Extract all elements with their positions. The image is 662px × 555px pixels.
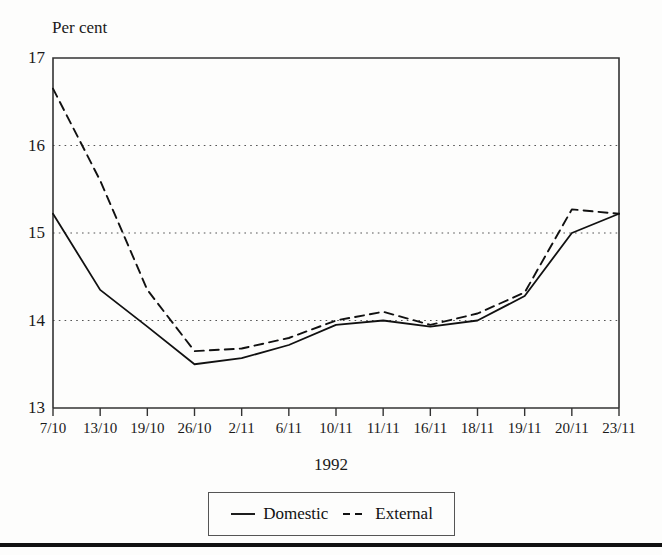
- y-tick-label: 16: [15, 137, 45, 154]
- y-tick-label: 17: [15, 49, 45, 66]
- series-line-domestic: [53, 214, 619, 365]
- series-lines: [53, 89, 619, 365]
- legend-item-domestic: Domestic: [230, 504, 328, 524]
- x-tick-label: 13/10: [83, 421, 117, 436]
- x-tick-label: 10/11: [319, 421, 353, 436]
- x-tick-label: 19/11: [508, 421, 542, 436]
- y-tick-label: 15: [15, 224, 45, 241]
- axis-frame-path: [53, 58, 619, 408]
- x-tick-label: 16/11: [414, 421, 448, 436]
- y-tick-label: 13: [15, 399, 45, 416]
- x-tick-label: 11/11: [367, 421, 400, 436]
- x-tick-label: 20/11: [555, 421, 589, 436]
- x-tick-label: 18/11: [461, 421, 495, 436]
- axis-frame: [53, 58, 619, 408]
- x-tick-label: 26/10: [177, 421, 211, 436]
- gridlines: [53, 146, 619, 321]
- y-tick-label: 14: [15, 312, 45, 329]
- x-tick-label: 2/11: [229, 421, 255, 436]
- series-line-external: [53, 89, 619, 352]
- x-tick-label: 6/11: [276, 421, 302, 436]
- legend: DomesticExternal: [208, 492, 455, 536]
- legend-label: External: [375, 504, 433, 524]
- x-tick-label: 23/11: [602, 421, 636, 436]
- legend-label: Domestic: [263, 504, 328, 524]
- x-tick-label: 7/10: [40, 421, 67, 436]
- solid-line-icon: [230, 509, 256, 519]
- x-axis-title: 1992: [0, 455, 662, 475]
- chart-figure: Per cent 1314151617 7/1013/1019/1026/102…: [0, 0, 662, 555]
- dashed-line-icon: [342, 509, 368, 519]
- x-tick-label: 19/10: [130, 421, 164, 436]
- legend-item-external: External: [342, 504, 433, 524]
- bottom-rule: [0, 543, 662, 547]
- x-axis-ticks: [53, 408, 619, 416]
